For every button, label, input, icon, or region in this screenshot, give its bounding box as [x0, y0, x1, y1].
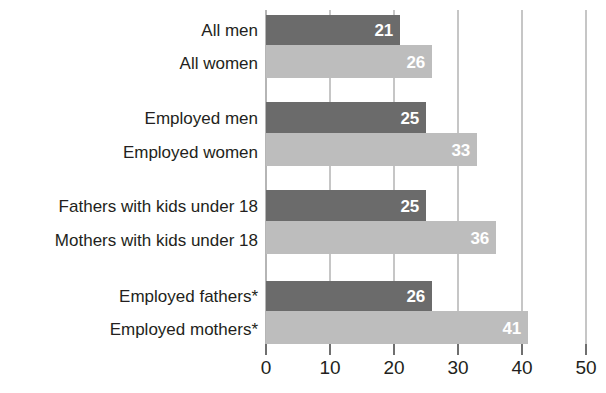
- bar-value-employed-mothers: 41: [502, 319, 521, 336]
- xtick-label-50: 50: [575, 358, 596, 377]
- category-label-employed-men: Employed men: [145, 110, 258, 127]
- xtick-label-30: 30: [447, 358, 468, 377]
- tickmark-10: [329, 344, 331, 355]
- bar-mothers-with-kids-under-18: 36: [266, 221, 496, 254]
- xtick-label-20: 20: [383, 358, 404, 377]
- gridline-30: [457, 10, 459, 354]
- gridline-40: [521, 10, 523, 354]
- bar-value-employed-women: 33: [451, 141, 470, 158]
- bar-value-employed-fathers: 26: [406, 288, 425, 305]
- bar-employed-women: 33: [266, 133, 477, 166]
- category-label-all-men: All men: [201, 22, 258, 39]
- tickmark-30: [457, 344, 459, 355]
- xtick-label-0: 0: [261, 358, 272, 377]
- bar-value-employed-men: 25: [400, 109, 419, 126]
- category-label-fathers-with-kids-under-18: Fathers with kids under 18: [59, 198, 258, 215]
- xtick-label-10: 10: [319, 358, 340, 377]
- bar-value-all-men: 21: [374, 22, 393, 39]
- tickmark-40: [521, 344, 523, 355]
- category-label-employed-mothers: Employed mothers*: [110, 321, 258, 338]
- bar-all-men: 21: [266, 15, 400, 45]
- bar-employed-fathers: 26: [266, 281, 432, 311]
- category-label-all-women: All women: [180, 55, 258, 72]
- plot-area: All men 21 All women 26 Employed men 25 …: [0, 0, 606, 393]
- bar-value-fathers-with-kids-under-18: 25: [400, 197, 419, 214]
- category-label-mothers-with-kids-under-18: Mothers with kids under 18: [55, 232, 258, 249]
- tickmark-50: [585, 344, 587, 355]
- bar-fathers-with-kids-under-18: 25: [266, 190, 426, 221]
- tickmark-0: [265, 344, 267, 355]
- bar-value-all-women: 26: [406, 53, 425, 70]
- xtick-label-40: 40: [511, 358, 532, 377]
- bar-value-mothers-with-kids-under-18: 36: [470, 229, 489, 246]
- category-label-employed-fathers: Employed fathers*: [119, 288, 258, 305]
- gridline-50: [585, 10, 587, 354]
- bar-all-women: 26: [266, 45, 432, 78]
- bar-employed-mothers: 41: [266, 311, 528, 344]
- horizontal-bar-chart: All men 21 All women 26 Employed men 25 …: [0, 0, 606, 393]
- category-label-employed-women: Employed women: [123, 144, 258, 161]
- tickmark-20: [393, 344, 395, 355]
- bar-employed-men: 25: [266, 102, 426, 133]
